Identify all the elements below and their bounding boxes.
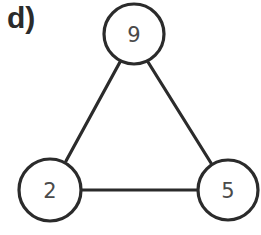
- edge-9-2: [66, 62, 120, 161]
- node-label: 2: [43, 179, 56, 203]
- node-label: 9: [127, 23, 140, 47]
- node-5: 5: [198, 160, 258, 220]
- node-label: 5: [221, 179, 234, 203]
- triangle-graph: 9 2 5: [0, 0, 261, 235]
- node-9: 9: [104, 4, 164, 64]
- edge-9-5: [148, 62, 211, 163]
- node-2: 2: [19, 159, 81, 221]
